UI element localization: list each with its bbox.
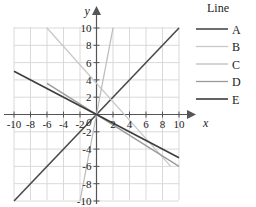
- y-tick-label: 8: [86, 39, 92, 51]
- x-axis-arrowhead: [187, 110, 196, 119]
- x-tick-label: 6: [143, 118, 149, 130]
- legend-label-d: D: [232, 75, 241, 89]
- legend-label-c: C: [232, 58, 240, 72]
- y-tick-label: -6: [82, 160, 92, 172]
- x-tick-label: 10: [174, 118, 186, 130]
- legend: LineABCDE: [196, 1, 241, 107]
- x-tick-label: 8: [160, 118, 166, 130]
- legend-label-a: A: [232, 23, 241, 37]
- y-axis-name: y: [84, 4, 91, 18]
- y-tick-label: -8: [82, 178, 92, 190]
- axis-lines: [4, 6, 196, 204]
- x-axis-name: x: [202, 116, 209, 130]
- y-tick-label: 2: [86, 91, 92, 103]
- legend-label-b: B: [232, 40, 240, 54]
- y-tick-label: -10: [77, 195, 92, 207]
- legend-label-e: E: [232, 93, 239, 107]
- legend-title: Line: [207, 1, 229, 15]
- x-tick-label: -10: [7, 118, 22, 130]
- x-tick-label: -8: [26, 118, 36, 130]
- x-tick-label: -6: [42, 118, 52, 130]
- y-tick-label: -4: [82, 143, 92, 155]
- x-tick-label: 4: [127, 118, 133, 130]
- line-graph-figure: -10-8-6-4-2246810-10-8-6-4-22468100 xy L…: [0, 0, 256, 207]
- y-axis-arrowhead: [92, 6, 101, 15]
- y-tick-label: 4: [86, 74, 92, 86]
- y-tick-label: 10: [81, 22, 93, 34]
- origin-label: 0: [86, 116, 92, 128]
- plot-canvas: -10-8-6-4-2246810-10-8-6-4-22468100 xy L…: [0, 0, 256, 207]
- x-tick-label: 2: [110, 118, 116, 130]
- x-tick-label: -4: [59, 118, 69, 130]
- y-tick-label: -2: [82, 126, 91, 138]
- y-tick-label: 6: [86, 57, 92, 69]
